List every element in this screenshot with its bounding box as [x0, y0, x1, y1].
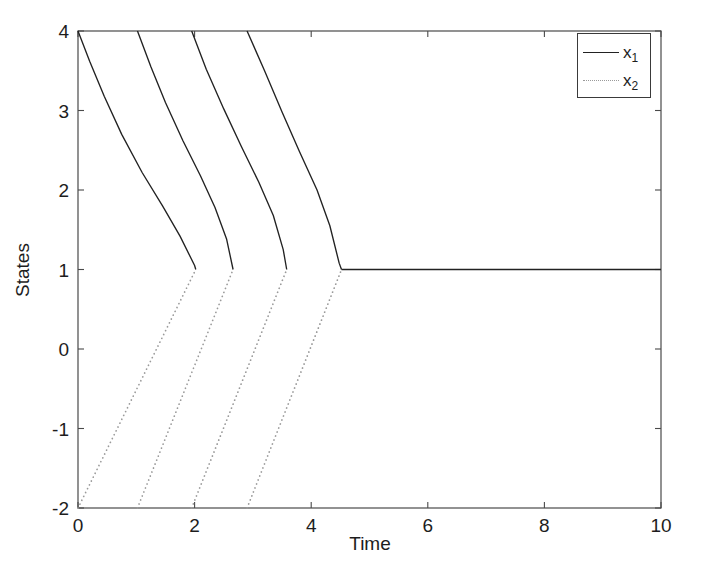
y-axis-title: States: [13, 243, 32, 297]
series-line-x2: [137, 270, 233, 509]
x-axis-title: Time: [349, 534, 391, 553]
x-tick-label: 6: [423, 516, 434, 535]
y-tick-label: 3: [58, 101, 69, 120]
legend-entry-x1: x1: [578, 39, 652, 65]
x-tick-label: 10: [650, 516, 671, 535]
series-line-x2: [192, 270, 287, 509]
series-line-x1: [78, 31, 196, 270]
legend-entry-x2: x2: [578, 67, 652, 93]
x-tick-label: 4: [306, 516, 317, 535]
series-line-x2: [247, 270, 341, 509]
legend-label-x1: x1: [623, 44, 638, 61]
series-line-x1: [247, 31, 341, 270]
y-tick-label: 0: [58, 340, 69, 359]
legend-label-x2: x2: [623, 72, 638, 89]
series-line-x1: [137, 31, 233, 270]
legend-line-sample-dotted: [583, 74, 619, 86]
series-line-x2: [78, 270, 196, 509]
series-x1: [78, 31, 661, 270]
series-line-x1: [192, 31, 287, 270]
figure-canvas: x1 x2 Time States 0246810-2-101234: [0, 0, 704, 567]
y-tick-label: -1: [52, 419, 69, 438]
legend: x1 x2: [577, 33, 651, 98]
x-tick-label: 2: [189, 516, 200, 535]
x-tick-label: 0: [73, 516, 84, 535]
legend-line-sample-solid: [583, 46, 619, 58]
y-tick-label: 4: [58, 22, 69, 41]
y-tick-label: -2: [52, 499, 69, 518]
y-tick-label: 2: [58, 181, 69, 200]
y-tick-label: 1: [58, 260, 69, 279]
series-x2: [78, 270, 342, 509]
x-tick-label: 8: [539, 516, 550, 535]
